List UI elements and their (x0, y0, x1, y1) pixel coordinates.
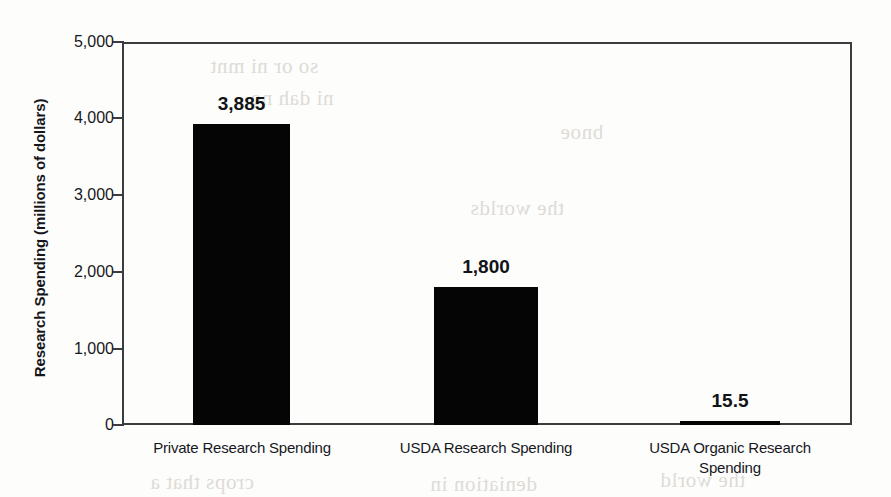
scan-bleed-artifact: crops that a (150, 470, 254, 495)
y-tick-label-5000: 5,000 (40, 34, 114, 50)
bar-usda-organic-research-spending (680, 421, 780, 425)
y-tick-label-0: 0 (40, 417, 114, 433)
x-axis-label-private-research-spending: Private Research Spending (140, 438, 344, 458)
bar-value-label-private-research-spending: 3,885 (193, 94, 290, 113)
y-tick-label-3000: 3,000 (40, 187, 114, 203)
bar-value-label-usda-organic-research-spending: 15.5 (680, 391, 780, 410)
bar-value-label-usda-research-spending: 1,800 (434, 257, 538, 276)
x-axis-label-usda-research-spending: USDA Research Spending (390, 438, 582, 458)
y-tick-label-4000: 4,000 (40, 110, 114, 126)
bar-usda-research-spending (434, 287, 538, 425)
y-tick-label-2000: 2,000 (40, 264, 114, 280)
x-axis-label-usda-organic-research-spending: USDA Organic Research Spending (645, 438, 815, 478)
scan-bleed-artifact: deniation in (430, 472, 537, 497)
bar-chart-figure: so or ni mnt ni dah no bnoe the worlds c… (0, 0, 891, 497)
bar-private-research-spending (193, 124, 290, 425)
y-tick-label-1000: 1,000 (40, 341, 114, 357)
